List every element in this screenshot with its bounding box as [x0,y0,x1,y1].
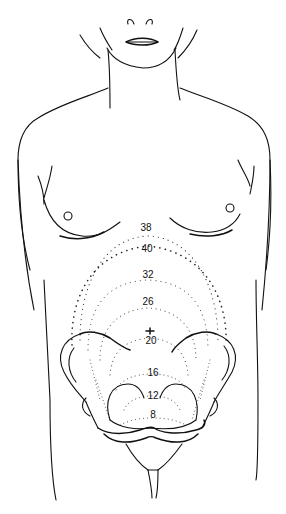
shoulder-left [18,88,108,270]
torso-right [256,280,258,480]
umbilicus-marker [146,328,154,334]
torso-drawing [0,0,286,514]
week-label-26: 26 [142,297,153,307]
neck-left [108,50,110,108]
nipple-right [226,204,234,212]
week-label-8: 8 [150,410,156,420]
week-label-40: 40 [141,244,152,254]
fundal-height-diagram: 38 40 32 26 20 16 12 8 [0,0,286,514]
face [80,20,197,69]
week-label-16: 16 [147,368,158,378]
breast-left [44,200,120,236]
pelvis [61,332,236,498]
nipple-left [64,212,72,220]
torso-left [44,280,56,500]
shoulder-right [180,88,271,270]
week-label-12: 12 [147,391,158,401]
week-label-32: 32 [142,270,153,280]
week-label-20: 20 [145,336,156,346]
week-label-38: 38 [140,223,151,233]
breast-right [170,214,240,232]
